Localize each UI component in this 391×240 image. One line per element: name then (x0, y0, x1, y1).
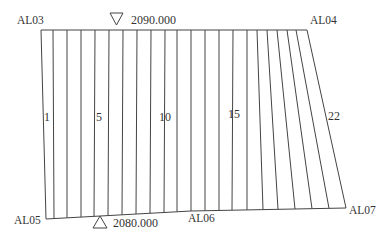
bottom-elevation-label: 2080.000 (113, 216, 158, 230)
division-line (257, 30, 263, 210)
corner-label-al07: AL07 (349, 204, 376, 216)
division-line (150, 30, 151, 213)
strip-label-5: 5 (96, 110, 102, 124)
division-line (94, 30, 95, 216)
division-lines (53, 30, 329, 219)
division-line (136, 30, 137, 214)
corner-label-al06: AL06 (188, 212, 215, 224)
strip-label-10: 10 (159, 110, 171, 124)
division-line (277, 30, 295, 209)
strip-label-22: 22 (328, 109, 340, 123)
triangle-up-icon (93, 216, 107, 228)
corner-label-al05: AL05 (14, 214, 41, 226)
division-line (267, 30, 278, 209)
division-line (108, 30, 109, 216)
division-line (122, 30, 123, 215)
division-line (53, 30, 54, 219)
corner-label-al04: AL04 (310, 14, 337, 26)
strip-label-1: 1 (44, 110, 50, 124)
corner-label-al03: AL03 (17, 14, 44, 26)
triangle-down-icon (110, 13, 123, 25)
strip-label-15: 15 (228, 107, 240, 121)
top-elevation-label: 2090.000 (131, 13, 176, 27)
section-diagram: 2090.000 2080.000 AL03 AL04 AL05 AL06 AL… (0, 0, 391, 240)
division-line (287, 30, 312, 209)
